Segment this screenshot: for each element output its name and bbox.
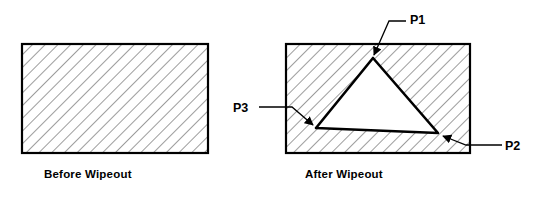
caption-after-wipeout: After Wipeout	[305, 168, 383, 180]
after-wipeout-shape	[286, 44, 470, 153]
before-wipeout-shape	[22, 44, 208, 153]
wipeout-diagram: P1 P2 P3 Before Wipeout After Wipeout	[0, 0, 548, 201]
before-rect-hatch-fill	[22, 44, 208, 153]
caption-before-wipeout: Before Wipeout	[44, 168, 132, 180]
point-label-p1: P1	[410, 13, 425, 27]
after-rect-hatch-fill	[286, 44, 470, 153]
point-label-p3: P3	[233, 101, 248, 115]
point-label-p2: P2	[505, 139, 520, 153]
